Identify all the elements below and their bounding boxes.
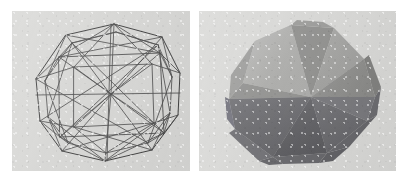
fan-edge — [105, 133, 164, 161]
side-edge — [40, 121, 74, 127]
hub-spoke — [105, 94, 111, 161]
side-edge — [45, 35, 66, 81]
hub-spoke — [111, 64, 152, 94]
panel-wireframe-rendering — [12, 11, 190, 171]
hub-spoke — [74, 94, 111, 127]
fan-edge — [74, 24, 114, 67]
wireframe-edges — [36, 24, 180, 161]
equator-chord — [36, 93, 180, 95]
solid-facets — [225, 20, 381, 165]
wireframe-drawing — [12, 11, 190, 171]
side-edge — [45, 57, 59, 81]
panel-shaded-rendering — [199, 11, 396, 171]
brace-edge — [158, 45, 170, 113]
shaded-solid-drawing — [199, 11, 396, 171]
figure-container — [0, 0, 410, 181]
hub-spoke — [111, 94, 154, 123]
side-edge — [152, 113, 170, 150]
